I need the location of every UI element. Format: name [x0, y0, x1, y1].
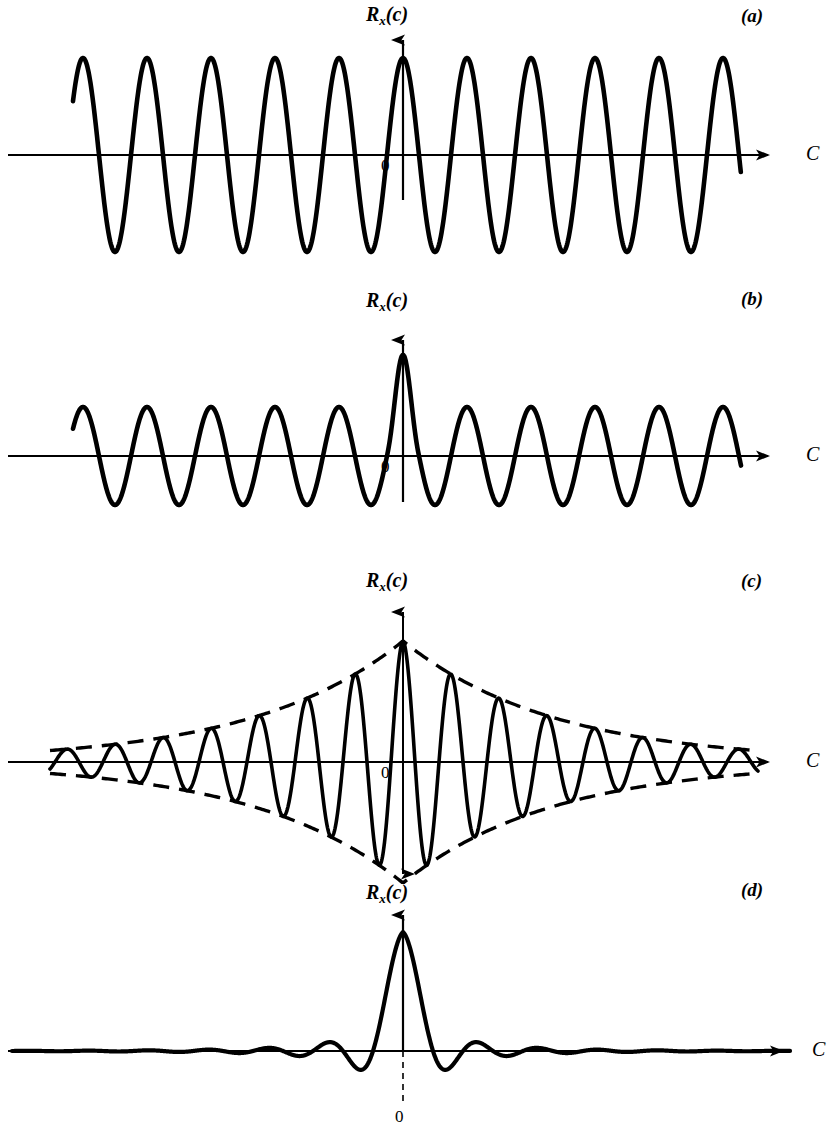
- panel-d-curve: [12, 932, 790, 1070]
- panel-c-x-axis-label: C: [806, 750, 819, 770]
- panel-c-label: (c): [741, 571, 762, 590]
- panel-d-label: (d): [741, 880, 763, 899]
- figure-autocorrelation-functions: Rx(c) (a) C 0 Rx(c) (b) C 0 Rx(c) (c) C …: [0, 0, 835, 1143]
- panel-c-origin-label: 0: [381, 764, 390, 781]
- panel-b-origin-label: 0: [381, 458, 390, 475]
- panel-d-group: [8, 915, 790, 1106]
- panel-b-y-axis-label: Rx(c): [366, 290, 408, 313]
- panel-c-y-axis-label: Rx(c): [366, 570, 408, 593]
- panel-a-label: (a): [741, 6, 763, 25]
- panel-a-origin-label: 0: [381, 157, 390, 174]
- panel-b-x-axis-label: C: [806, 444, 819, 464]
- panel-d-origin-label: 0: [395, 1108, 404, 1125]
- panel-a-y-axis-label: Rx(c): [366, 4, 408, 27]
- panel-d-y-axis-label: Rx(c): [366, 882, 408, 905]
- panel-d-x-axis-label: C: [812, 1039, 825, 1059]
- figure-canvas: [0, 0, 835, 1143]
- panel-a-group: [8, 40, 768, 252]
- panel-b-label: (b): [741, 289, 763, 308]
- panel-b-curve: [73, 355, 741, 505]
- panel-b-group: [8, 340, 768, 505]
- panel-c-group: [8, 612, 768, 882]
- panel-a-x-axis-label: C: [806, 143, 819, 163]
